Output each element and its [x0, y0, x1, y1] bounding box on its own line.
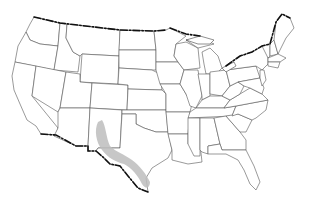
state-iowa: [156, 62, 184, 84]
state-kansas: [127, 89, 166, 110]
state-florida: [208, 144, 260, 190]
state-south-dakota: [119, 50, 156, 70]
state-arkansas: [166, 112, 190, 134]
state-arizona: [54, 108, 90, 146]
state-connecticut: [268, 62, 280, 68]
states-layer: [12, 14, 294, 192]
state-wyoming: [80, 54, 119, 84]
state-colorado: [90, 83, 128, 110]
us-range-map: [0, 0, 309, 210]
state-north-dakota: [119, 30, 156, 50]
state-michigan: [202, 48, 222, 74]
